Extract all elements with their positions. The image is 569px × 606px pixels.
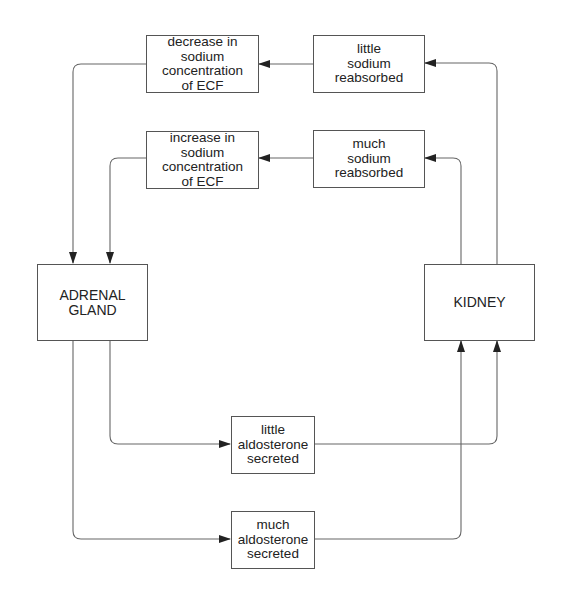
edge-adrenal-to-much-aldosterone [73,340,230,539]
node-little-aldosterone-secreted: little aldosterone secreted [231,416,315,474]
edge-much-aldosterone-to-kidney [314,341,461,539]
node-much-sodium-reabsorbed: much sodium reabsorbed [313,130,425,188]
node-much-aldosterone-secreted: much aldosterone secreted [231,511,315,569]
node-increase-sodium: increase in sodium concentration of ECF [146,131,259,189]
edge-adrenal-to-little-aldosterone [110,340,230,444]
edge-little-aldosterone-to-kidney [314,341,497,444]
edge-kidney-to-much-sodium [425,158,461,264]
node-decrease-sodium: decrease in sodium concentration of ECF [146,35,259,93]
node-adrenal-gland: ADRENAL GLAND [37,264,148,341]
node-little-sodium-reabsorbed: little sodium reabsorbed [313,35,425,93]
edge-increase-to-adrenal [110,158,146,263]
node-kidney: KIDNEY [424,264,535,341]
